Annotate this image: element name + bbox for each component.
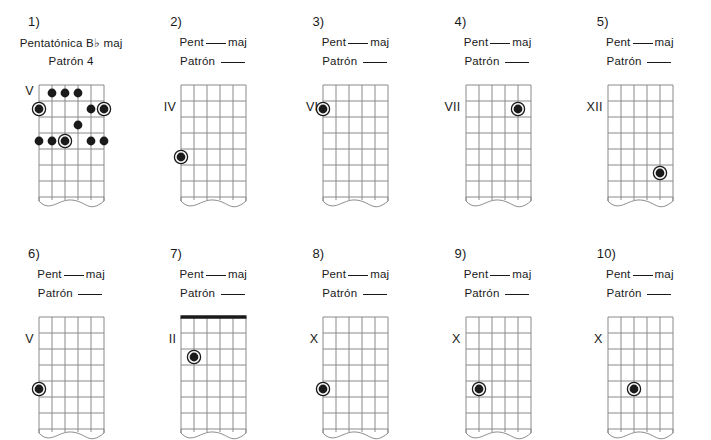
fill-in-blank[interactable] [490, 275, 510, 276]
scale-name-suffix: maj [370, 268, 389, 280]
fretboard-diagram-4: 4)PentmajPatrón VII [427, 0, 569, 220]
fretboard-grid[interactable] [38, 316, 105, 440]
pattern-number-label: Patrón [142, 287, 284, 299]
fill-in-blank[interactable] [647, 294, 671, 295]
scale-name-label: Pentatónica B♭ maj [0, 36, 142, 50]
pattern-label-prefix: Patrón [180, 55, 215, 67]
torn-edge [39, 429, 104, 439]
fill-in-blank[interactable] [633, 43, 653, 44]
fill-in-blank[interactable] [221, 62, 245, 63]
fill-in-blank[interactable] [348, 43, 368, 44]
fretboard-area: VII [427, 76, 569, 220]
torn-edge [608, 197, 673, 207]
fretboard-grid[interactable] [322, 316, 389, 440]
scale-name-suffix: maj [512, 268, 531, 280]
note-dot [87, 105, 96, 114]
scale-name-prefix: Pent [179, 36, 203, 48]
torn-edge [181, 197, 246, 207]
root-note-dot [474, 385, 483, 394]
fill-in-blank[interactable] [206, 43, 226, 44]
pattern-number-label: Patrón [142, 55, 284, 67]
torn-edge [608, 429, 673, 439]
fill-in-blank[interactable] [363, 294, 387, 295]
scale-name-prefix: Pent [606, 268, 630, 280]
root-note-dot [35, 105, 44, 114]
worksheet-page: 1)Pentatónica B♭ majPatrón 4V2)PentmajPa… [0, 0, 711, 440]
fretboard-diagram-2: 2)PentmajPatrón IV [142, 0, 284, 220]
fill-in-blank[interactable] [348, 275, 368, 276]
fill-in-blank[interactable] [505, 294, 529, 295]
root-note-dot [100, 105, 109, 114]
fretboard-grid[interactable] [607, 316, 674, 440]
fill-in-blank[interactable] [633, 275, 653, 276]
pattern-number-label: Patrón [427, 55, 569, 67]
pattern-label-prefix: Patrón [38, 287, 73, 299]
fretboard-grid[interactable] [465, 84, 532, 226]
scale-name-suffix: maj [655, 36, 674, 48]
diagram-number: 9) [455, 246, 467, 261]
fretboard-area: X [427, 308, 569, 440]
root-note-dot [655, 169, 664, 178]
scale-name-suffix: maj [655, 268, 674, 280]
position-marker: X [569, 332, 603, 346]
diagram-number: 7) [170, 246, 182, 261]
root-note-dot [513, 105, 522, 114]
scale-name-label: Pentmaj [569, 36, 711, 48]
fretboard-grid[interactable] [465, 316, 532, 440]
note-dot [100, 137, 109, 146]
scale-name-prefix: Pent [322, 36, 346, 48]
position-marker: XII [569, 100, 603, 114]
fretboard-diagram-6: 6)PentmajPatrón V [0, 232, 142, 440]
scale-name-suffix: maj [228, 36, 247, 48]
fretboard-grid[interactable] [607, 84, 674, 226]
root-note-dot [319, 385, 328, 394]
scale-name-suffix: maj [86, 268, 105, 280]
fill-in-blank[interactable] [363, 62, 387, 63]
fretboard-diagram-5: 5)PentmajPatrón XII [569, 0, 711, 220]
fill-in-blank[interactable] [505, 62, 529, 63]
position-marker: VI [284, 100, 318, 114]
fill-in-blank[interactable] [221, 294, 245, 295]
root-note-dot [319, 105, 328, 114]
fretboard-area: XII [569, 76, 711, 220]
pattern-label-prefix: Patrón [607, 55, 642, 67]
fretboard-diagram-9: 9)PentmajPatrón X [427, 232, 569, 440]
root-note-dot [190, 353, 199, 362]
fretboard-area: X [569, 308, 711, 440]
position-marker: V [0, 84, 34, 98]
fretboard-grid[interactable] [180, 84, 247, 226]
position-marker: X [427, 332, 461, 346]
fill-in-blank[interactable] [490, 43, 510, 44]
scale-name-label: Pentmaj [427, 36, 569, 48]
position-marker: V [0, 332, 34, 346]
fretboard-grid[interactable] [180, 316, 247, 440]
fill-in-blank[interactable] [64, 275, 84, 276]
torn-edge [39, 197, 104, 207]
pattern-label-prefix: Patrón [322, 55, 357, 67]
pattern-label-prefix: Patrón [464, 287, 499, 299]
fretboard-area: II [142, 308, 284, 440]
scale-name-label: Pentmaj [569, 268, 711, 280]
scale-name-prefix: Pent [179, 268, 203, 280]
fill-in-blank[interactable] [78, 294, 102, 295]
diagram-number: 4) [455, 14, 467, 29]
scale-name-label: Pentmaj [0, 268, 142, 280]
diagram-number: 2) [170, 14, 182, 29]
fill-in-blank[interactable] [647, 62, 671, 63]
root-note-dot [35, 385, 44, 394]
pattern-label-prefix: Patrón [464, 55, 499, 67]
pattern-label-prefix: Patrón [322, 287, 357, 299]
fill-in-blank[interactable] [206, 275, 226, 276]
fretboard-diagram-8: 8)PentmajPatrón X [284, 232, 426, 440]
pattern-number-label: Patrón [284, 287, 426, 299]
pattern-label-prefix: Patrón [180, 287, 215, 299]
note-dot [74, 121, 83, 130]
pattern-number-label: Patrón 4 [0, 55, 142, 67]
note-dot [48, 89, 57, 98]
scale-name-label: Pentmaj [142, 268, 284, 280]
pattern-number-label: Patrón [569, 55, 711, 67]
fretboard-grid[interactable] [322, 84, 389, 226]
fretboard-grid[interactable] [38, 84, 105, 226]
note-dot [35, 137, 44, 146]
scale-name-label: Pentmaj [284, 36, 426, 48]
